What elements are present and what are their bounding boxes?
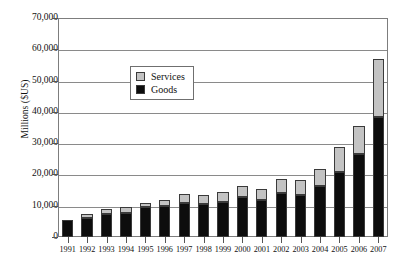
bar-segment-goods — [62, 220, 73, 237]
chart-container: Millions ($US) 010,00020,00030,00040,000… — [0, 0, 397, 268]
x-tick-mark — [68, 237, 69, 243]
legend-item-goods: Goods — [136, 83, 185, 96]
x-tick-label: 1996 — [157, 246, 173, 254]
x-tick-mark — [184, 237, 185, 243]
legend-swatch-services — [136, 72, 145, 81]
bar-segment-goods — [120, 213, 131, 237]
bar-segment-services — [120, 207, 131, 213]
bar-segment-goods — [373, 117, 384, 237]
bar-segment-goods — [276, 193, 287, 237]
bar-segment-goods — [101, 214, 112, 237]
x-tick-label: 1993 — [98, 246, 114, 254]
legend-item-services: Services — [136, 70, 185, 83]
x-tick-mark — [301, 237, 302, 243]
x-tick-mark — [204, 237, 205, 243]
x-tick-mark — [378, 237, 379, 243]
legend-label-goods: Goods — [151, 85, 177, 95]
bar-group — [62, 18, 73, 237]
x-tick-mark — [145, 237, 146, 243]
x-axis-tick-labels: 1991199219931994199519961997199819992000… — [58, 246, 388, 262]
bar-group — [140, 18, 151, 237]
y-tick-label: 50,000 — [6, 76, 58, 86]
x-tick-label: 1997 — [176, 246, 192, 254]
bar-segment-services — [198, 195, 209, 204]
x-tick-mark — [359, 237, 360, 243]
x-tick-label: 2005 — [331, 246, 347, 254]
x-tick-label: 2006 — [351, 246, 367, 254]
x-tick-label: 2002 — [273, 246, 289, 254]
bar-segment-goods — [295, 195, 306, 237]
x-tick-label: 2000 — [234, 246, 250, 254]
y-tick-label: 70,000 — [6, 13, 58, 23]
bar-segment-services — [314, 169, 325, 187]
bar-segment-services — [353, 126, 364, 155]
bar-segment-services — [256, 189, 267, 200]
y-tick-label: 10,000 — [6, 201, 58, 211]
bar-segment-goods — [217, 202, 228, 237]
bar-group — [120, 18, 131, 237]
bar-group — [334, 18, 345, 237]
bar-segment-services — [101, 209, 112, 214]
bar-group — [314, 18, 325, 237]
bar-segment-goods — [237, 197, 248, 237]
bar-group — [159, 18, 170, 237]
legend-swatch-goods — [136, 85, 145, 94]
bar-segment-services — [237, 186, 248, 197]
y-tick-label: 30,000 — [6, 138, 58, 148]
chart-legend: Services Goods — [130, 66, 194, 100]
x-tick-mark — [339, 237, 340, 243]
bar-segment-goods — [159, 206, 170, 237]
x-tick-mark — [126, 237, 127, 243]
bar-segment-services — [81, 214, 92, 218]
bar-segment-services — [295, 180, 306, 195]
x-tick-label: 2003 — [292, 246, 308, 254]
bar-segment-goods — [179, 203, 190, 237]
bar-segment-services — [140, 203, 151, 207]
x-tick-label: 1995 — [137, 246, 153, 254]
bar-group — [217, 18, 228, 237]
bar-segment-goods — [353, 154, 364, 237]
x-tick-label: 2004 — [312, 246, 328, 254]
bar-segment-goods — [81, 218, 92, 237]
x-tick-mark — [281, 237, 282, 243]
x-tick-mark — [165, 237, 166, 243]
y-axis-ticks: 010,00020,00030,00040,00050,00060,00070,… — [0, 0, 58, 268]
bar-group — [353, 18, 364, 237]
bar-group — [276, 18, 287, 237]
bar-segment-services — [373, 59, 384, 117]
legend-label-services: Services — [151, 72, 185, 82]
x-tick-mark — [262, 237, 263, 243]
x-tick-label: 2001 — [254, 246, 270, 254]
bar-segment-goods — [256, 200, 267, 237]
y-tick-label: 0 — [6, 232, 58, 242]
x-tick-label: 2007 — [370, 246, 386, 254]
x-tick-label: 1991 — [60, 246, 76, 254]
bar-segment-goods — [140, 207, 151, 237]
x-tick-mark — [242, 237, 243, 243]
bar-segment-services — [334, 147, 345, 172]
x-tick-label: 1999 — [215, 246, 231, 254]
x-tick-label: 1998 — [195, 246, 211, 254]
y-tick-label: 20,000 — [6, 170, 58, 180]
bar-group — [373, 18, 384, 237]
x-tick-mark — [107, 237, 108, 243]
bar-group — [295, 18, 306, 237]
bar-group — [179, 18, 190, 237]
bar-segment-services — [276, 179, 287, 193]
bar-group — [198, 18, 209, 237]
bar-group — [81, 18, 92, 237]
bar-group — [101, 18, 112, 237]
x-tick-mark — [320, 237, 321, 243]
bar-group — [237, 18, 248, 237]
x-tick-mark — [223, 237, 224, 243]
bar-segment-services — [159, 200, 170, 207]
bar-group — [256, 18, 267, 237]
bar-segment-goods — [198, 204, 209, 237]
bar-segment-services — [217, 192, 228, 201]
bars-layer — [58, 18, 388, 237]
bar-segment-services — [179, 194, 190, 202]
x-tick-label: 1994 — [118, 246, 134, 254]
x-tick-label: 1992 — [79, 246, 95, 254]
x-tick-mark — [87, 237, 88, 243]
y-tick-label: 60,000 — [6, 45, 58, 55]
